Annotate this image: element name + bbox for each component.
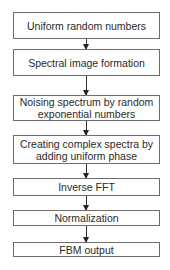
step-inverse-fft: Inverse FFT (13, 178, 160, 196)
step-complex-spectra: Creating complex spectra by adding unifo… (13, 135, 160, 164)
arrow-down-icon (86, 39, 87, 49)
arrow-down-icon (86, 121, 87, 135)
step-uniform-random-numbers: Uniform random numbers (13, 12, 160, 39)
step-normalization: Normalization (13, 210, 160, 226)
arrow-down-icon (86, 196, 87, 210)
step-fbm-output: FBM output (13, 242, 160, 257)
step-spectral-image-formation: Spectral image formation (13, 49, 160, 76)
arrow-down-icon (86, 76, 87, 95)
step-noising-spectrum: Noising spectrum by random exponential n… (13, 95, 160, 121)
arrow-down-icon (86, 226, 87, 242)
arrow-down-icon (86, 164, 87, 178)
